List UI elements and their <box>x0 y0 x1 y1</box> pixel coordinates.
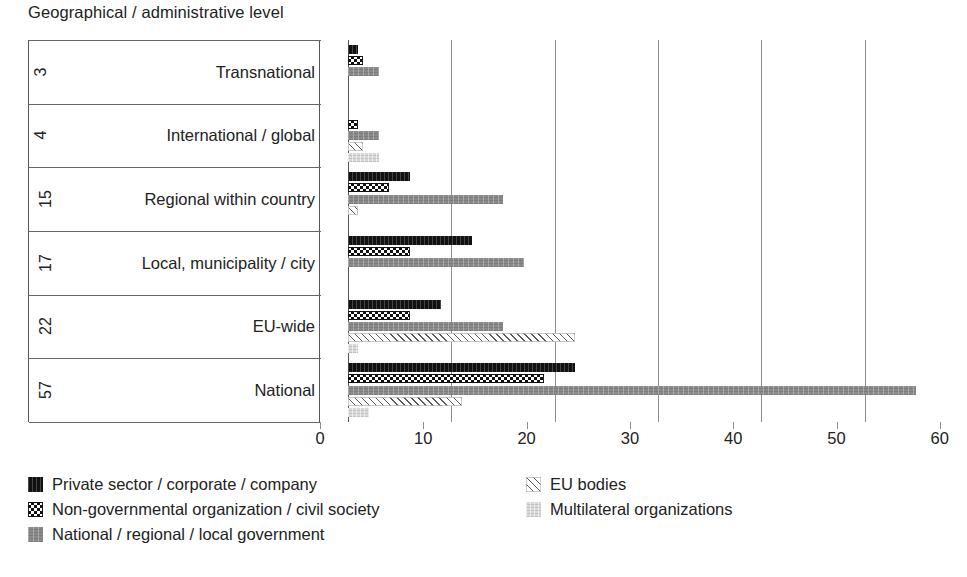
legend-label: EU bodies <box>550 475 626 494</box>
category-count: 17 <box>37 254 55 272</box>
category-row: 57National <box>29 358 321 422</box>
category-row: 17Local, municipality / city <box>29 231 321 295</box>
bar-group <box>320 40 940 104</box>
bar-group <box>320 358 940 422</box>
category-label: Local, municipality / city <box>142 253 315 272</box>
bar <box>348 172 410 181</box>
bar <box>348 236 472 245</box>
legend-item: Private sector / corporate / company <box>28 472 498 497</box>
category-row: 22EU-wide <box>29 295 321 359</box>
bar <box>348 56 363 65</box>
x-tick-label: 0 <box>315 429 324 448</box>
chart-title: Geographical / administrative level <box>28 3 284 22</box>
bar <box>348 322 503 331</box>
category-count: 3 <box>32 67 50 76</box>
category-row: 3Transnational <box>29 40 321 104</box>
category-label: Transnational <box>216 62 315 81</box>
row-separator <box>29 422 321 423</box>
x-tick-label: 50 <box>827 429 845 448</box>
bar <box>348 183 389 192</box>
bar-group <box>320 104 940 168</box>
x-tick-label: 10 <box>414 429 432 448</box>
bar <box>348 153 379 162</box>
bar-group <box>320 167 940 231</box>
bar <box>348 142 363 151</box>
bar <box>348 67 379 76</box>
legend-swatch-icon <box>526 502 541 517</box>
bar <box>348 120 358 129</box>
bar-group <box>320 231 940 295</box>
legend-item: EU bodies <box>526 472 946 497</box>
x-tick-mark <box>527 422 528 429</box>
legend-item: National / regional / local government <box>28 522 498 547</box>
bar <box>348 344 358 353</box>
legend-label: National / regional / local government <box>52 525 324 544</box>
legend-swatch-icon <box>526 477 541 492</box>
bar <box>348 247 410 256</box>
category-label: Regional within country <box>144 190 315 209</box>
x-tick-label: 30 <box>621 429 639 448</box>
x-tick-mark <box>837 422 838 429</box>
legend-item: Non-governmental organization / civil so… <box>28 497 498 522</box>
legend-column-left: Private sector / corporate / companyNon-… <box>28 472 498 547</box>
category-row: 15Regional within country <box>29 167 321 231</box>
bar <box>348 195 503 204</box>
category-row: 4International / global <box>29 104 321 168</box>
bar <box>348 363 575 372</box>
bar <box>348 206 358 215</box>
legend-label: Private sector / corporate / company <box>52 475 317 494</box>
bar <box>348 258 524 267</box>
bar <box>348 386 916 395</box>
x-tick-mark <box>940 422 941 429</box>
x-tick-label: 60 <box>931 429 949 448</box>
bar <box>348 300 441 309</box>
bar-group <box>320 295 940 359</box>
bar <box>348 333 575 342</box>
plot-area: 3Transnational4International / global15R… <box>28 40 940 422</box>
x-tick-mark <box>320 422 321 429</box>
category-count: 57 <box>37 381 55 399</box>
x-tick-label: 40 <box>724 429 742 448</box>
legend-swatch-icon <box>28 477 43 492</box>
category-label-table: 3Transnational4International / global15R… <box>28 40 320 422</box>
category-label: International / global <box>166 126 315 145</box>
category-label: National <box>254 381 315 400</box>
bar <box>348 311 410 320</box>
bar <box>348 131 379 140</box>
x-tick-label: 20 <box>517 429 535 448</box>
legend-label: Non-governmental organization / civil so… <box>52 500 379 519</box>
bar <box>348 397 462 406</box>
category-count: 15 <box>37 190 55 208</box>
legend-item: Multilateral organizations <box>526 497 946 522</box>
x-tick-mark <box>733 422 734 429</box>
legend-swatch-icon <box>28 502 43 517</box>
bar <box>348 408 369 417</box>
category-count: 4 <box>32 131 50 140</box>
x-tick-mark <box>630 422 631 429</box>
x-tick-mark <box>423 422 424 429</box>
category-count: 22 <box>37 318 55 336</box>
bar <box>348 374 544 383</box>
legend-label: Multilateral organizations <box>550 500 733 519</box>
category-label: EU-wide <box>253 317 315 336</box>
x-axis: 0102030405060 <box>320 422 940 448</box>
bar <box>348 45 358 54</box>
legend-swatch-icon <box>28 527 43 542</box>
bars-canvas <box>320 40 940 422</box>
legend-column-right: EU bodiesMultilateral organizations <box>526 472 946 522</box>
